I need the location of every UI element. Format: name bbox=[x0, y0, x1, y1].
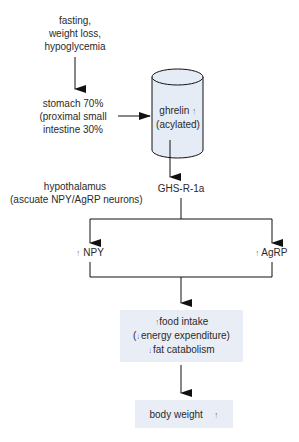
fat-text: fat catabolism bbox=[153, 344, 215, 355]
food-intake-text: food intake bbox=[159, 316, 208, 327]
npy-label: ↑ NPY bbox=[72, 246, 108, 260]
source-line: (proximal small bbox=[28, 110, 118, 123]
arrow-up-icon: ↑ bbox=[156, 316, 158, 329]
arrow-up-icon: ↑ bbox=[215, 409, 217, 422]
ghrelin-label: ghrelin ↑ (acylated) bbox=[150, 104, 206, 131]
trigger-line: weight loss, bbox=[35, 27, 115, 40]
arrow-up-icon: ↑ bbox=[256, 247, 258, 260]
arrow-down-icon: ↓ bbox=[149, 344, 151, 357]
body-weight-text: body weight bbox=[150, 409, 203, 420]
diagram-connectors bbox=[0, 0, 299, 442]
paren: ( bbox=[133, 330, 136, 341]
outcome-box: body weight ↑ bbox=[135, 400, 233, 428]
arrow-down-icon: ↓ bbox=[137, 330, 139, 343]
effect-food-intake: ↑food intake bbox=[120, 315, 243, 329]
agrp-label: ↑ AgRP bbox=[250, 246, 292, 260]
trigger-line: hypoglycemia bbox=[35, 40, 115, 53]
ghrelin-name-row: ghrelin ↑ bbox=[150, 104, 206, 118]
location-line: hypothalamus bbox=[10, 180, 140, 193]
ghrelin-form: (acylated) bbox=[150, 118, 206, 131]
trigger-line: fasting, bbox=[35, 14, 115, 27]
receptor-label: GHS-R-1a bbox=[150, 182, 212, 195]
energy-text: energy expenditure) bbox=[141, 330, 230, 341]
arrow-up-icon: ↑ bbox=[193, 105, 195, 118]
effect-fat: ↓fat catabolism bbox=[120, 343, 243, 357]
location-line: (ascuate NPY/AgRP neurons) bbox=[10, 193, 140, 206]
ghrelin-name: ghrelin bbox=[159, 105, 189, 116]
source-line: intestine 30% bbox=[28, 123, 118, 136]
trigger-label: fasting, weight loss, hypoglycemia bbox=[35, 14, 115, 53]
effects-box: ↑food intake (↓energy expenditure) ↓fat … bbox=[120, 310, 243, 362]
npy-text: NPY bbox=[83, 247, 104, 258]
source-line: stomach 70% bbox=[28, 97, 118, 110]
outcome-label: body weight ↑ bbox=[135, 408, 233, 422]
arrow-up-icon: ↑ bbox=[77, 247, 79, 260]
agrp-text: AgRP bbox=[261, 247, 287, 258]
hypothalamus-label: hypothalamus (ascuate NPY/AgRP neurons) bbox=[10, 180, 140, 206]
source-label: stomach 70% (proximal small intestine 30… bbox=[28, 97, 118, 136]
effect-energy: (↓energy expenditure) bbox=[120, 329, 243, 343]
